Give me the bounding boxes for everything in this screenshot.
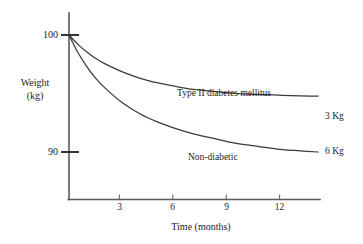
y-axis-title-line2: (kg)	[8, 90, 62, 102]
x-tick-label-6: 6	[160, 202, 185, 213]
chart-figure: 100 90 Weight (kg) 3 6 9 12 Time (months…	[0, 0, 363, 244]
series-label-non-diabetic: Non-diabetic	[188, 152, 238, 163]
end-label-3-kg: 3 Kg	[325, 111, 344, 122]
y-tick-label-90: 90	[28, 146, 58, 158]
series-label-type-ii-diabetes-mellitus: Type II diabetes mellitus	[177, 88, 271, 99]
y-axis-title-line1: Weight	[8, 77, 62, 89]
x-tick-label-9: 9	[214, 202, 239, 213]
end-label-6-kg: 6 Kg	[325, 146, 344, 157]
x-axis-title: Time (months)	[146, 221, 256, 233]
x-tick-label-3: 3	[107, 202, 132, 213]
y-tick-label-100: 100	[28, 29, 58, 41]
series-line-type-ii-diabetes-mellitus	[69, 35, 318, 96]
x-tick-label-12: 12	[267, 202, 292, 213]
